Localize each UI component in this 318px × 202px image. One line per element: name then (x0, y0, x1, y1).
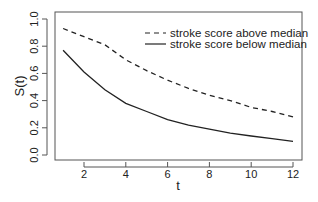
y-tick-label: 0.2 (28, 120, 40, 135)
y-axis: 0.00.20.40.60.81.0 (28, 11, 47, 162)
y-axis-title: S(t) (12, 76, 27, 97)
x-tick-label: 12 (287, 168, 299, 180)
y-tick-label: 1.0 (28, 11, 40, 26)
x-tick-label: 6 (165, 168, 171, 180)
x-tick-label: 2 (81, 168, 87, 180)
series-below-median (63, 50, 293, 141)
x-axis: 24681012 (81, 162, 299, 180)
x-tick-label: 8 (206, 168, 212, 180)
y-tick-label: 0.0 (28, 147, 40, 162)
x-tick-label: 4 (123, 168, 129, 180)
y-tick-label: 0.8 (28, 39, 40, 54)
legend: stroke score above median stroke score b… (145, 27, 308, 50)
survival-chart: 0.00.20.40.60.81.0 24681012 S(t) t strok… (0, 0, 318, 202)
y-tick-label: 0.6 (28, 66, 40, 81)
y-tick-label: 0.4 (28, 93, 40, 108)
legend-label-below: stroke score below median (170, 38, 307, 50)
x-axis-title: t (176, 178, 180, 193)
x-tick-label: 10 (245, 168, 257, 180)
